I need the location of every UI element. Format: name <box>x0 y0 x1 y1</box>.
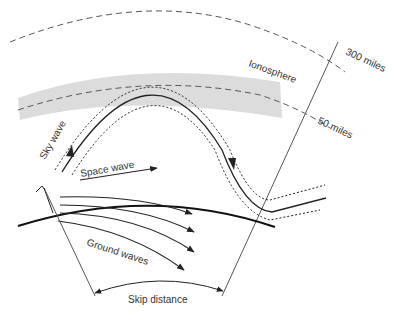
altitude-low-label: 50 miles <box>316 115 354 141</box>
ground-wave-arrow-4 <box>58 221 184 270</box>
sky-wave-up-arrow-icon <box>66 145 74 157</box>
skip-distance-label: Skip distance <box>128 294 188 305</box>
antenna-icon <box>36 186 53 213</box>
altitude-300-miles-arc <box>10 11 345 72</box>
skip-distance-arrow <box>95 281 223 293</box>
earth-surface <box>18 206 275 227</box>
ground-wave-arrow-3 <box>60 213 194 252</box>
sky-wave-path <box>62 95 326 212</box>
radio-propagation-diagram: Ionosphere 300 miles 50 miles Sky wave S… <box>0 0 393 311</box>
ground-wave-arrow-2 <box>60 205 194 232</box>
altitude-high-label: 300 miles <box>344 46 387 74</box>
sky-wave-label: Sky wave <box>37 118 68 161</box>
ionosphere-band <box>18 73 282 120</box>
ground-waves-label: Ground waves <box>85 236 150 266</box>
